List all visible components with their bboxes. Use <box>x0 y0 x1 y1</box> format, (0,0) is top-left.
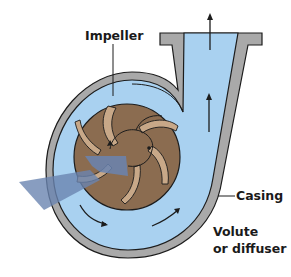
volute-label-line2: or diffuser <box>213 241 286 256</box>
casing-label: Casing <box>236 188 283 203</box>
volute-label-line1: Volute <box>213 224 258 239</box>
impeller-label: Impeller <box>85 28 143 43</box>
